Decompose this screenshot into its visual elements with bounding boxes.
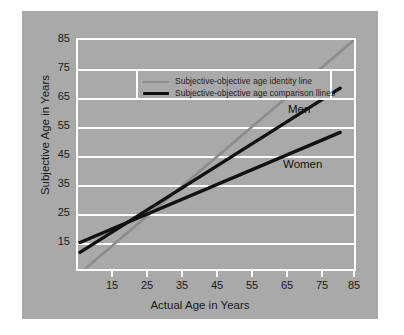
y-axis-title: Subjective Age in Years [39,50,51,220]
x-tick-label-45: 45 [202,280,232,291]
legend-label-comparison: Subjective-objective age comparison llin… [175,89,335,98]
x-tickmark-55 [251,271,253,277]
x-tick-label-25: 25 [132,280,162,291]
x-tickmark-75 [321,271,323,277]
legend-swatch-identity-icon [143,81,169,83]
x-tickmark-25 [146,271,148,277]
x-tickmark-65 [286,271,288,277]
legend-label-identity: Subjective-objective age identity line [175,77,312,86]
series-label-men: Men [288,103,310,115]
x-tickmark-35 [181,271,183,277]
y-tick-label-85: 85 [44,33,70,44]
chart-figure: Subjective Age in Years 85 75 65 55 45 3… [22,11,378,319]
y-tick-label-55: 55 [44,120,70,131]
y-tick-label-65: 65 [44,91,70,102]
legend-entry-comparison: Subjective-objective age comparison llin… [143,87,335,100]
y-tick-label-25: 25 [44,207,70,218]
y-tick-label-45: 45 [44,149,70,160]
women-line [80,132,340,242]
x-tick-label-15: 15 [97,280,127,291]
legend-swatch-comparison-icon [143,92,169,95]
y-tick-label-15: 15 [44,236,70,247]
series-label-women: Women [283,158,322,170]
x-tick-label-85: 85 [339,280,369,291]
x-tickmark-45 [216,271,218,277]
y-tick-label-75: 75 [44,62,70,73]
chart-legend: Subjective-objective age identity line S… [136,69,332,100]
y-tick-label-35: 35 [44,178,70,189]
x-tick-label-55: 55 [237,280,267,291]
plot-area: Men Women Subjective-objective age ident… [76,38,356,271]
x-tick-label-65: 65 [272,280,302,291]
x-tickmark-15 [111,271,113,277]
x-axis-title: Actual Age in Years [22,299,378,311]
x-tickmark-85 [353,271,355,277]
x-tick-label-75: 75 [307,280,337,291]
x-tick-label-35: 35 [167,280,197,291]
